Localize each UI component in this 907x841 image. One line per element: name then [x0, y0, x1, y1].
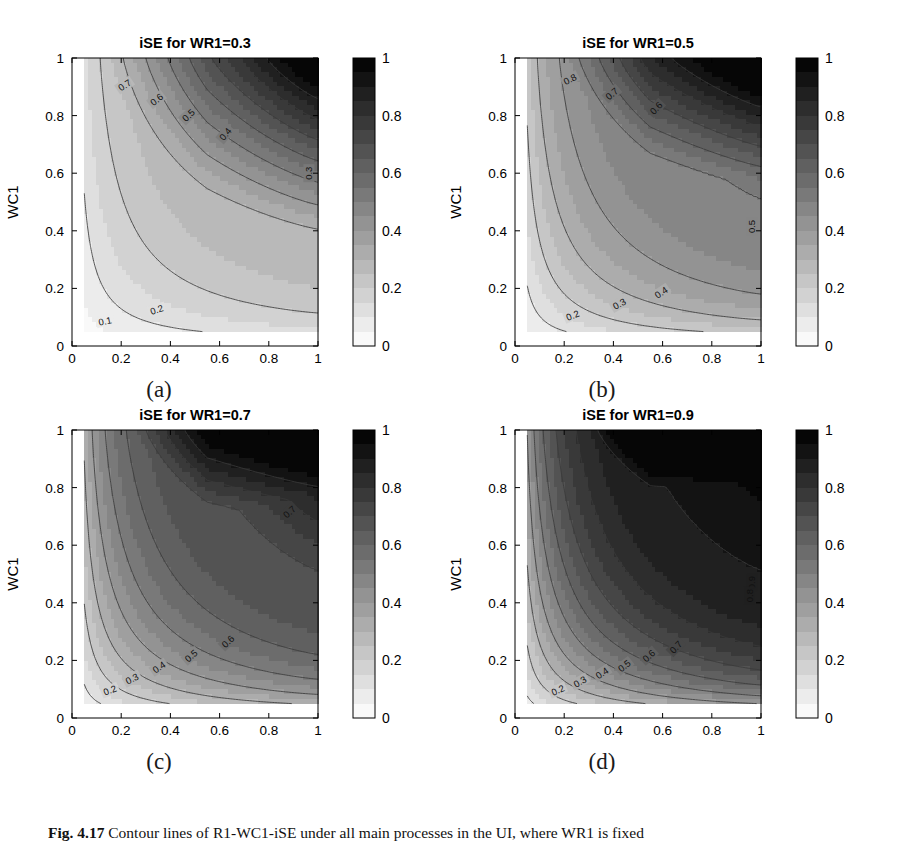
colorbar-tick-label: 0.2 — [825, 280, 845, 296]
x-tick-label: 0.4 — [604, 723, 623, 738]
colorbar-tick-label: 0.8 — [825, 108, 845, 124]
y-axis-title-d: WC1 — [447, 557, 464, 590]
y-tick-label: 0.8 — [488, 481, 507, 496]
x-tick-label: 0.8 — [702, 351, 721, 366]
y-tick-label: 0 — [56, 711, 64, 726]
colorbar-d: 00.20.40.60.81 — [796, 422, 845, 726]
y-axis-title-b: WC1 — [447, 185, 464, 218]
x-axis-title-c: R1 — [185, 744, 204, 745]
y-tick-label: 0.2 — [45, 281, 64, 296]
x-tick-label: 0 — [68, 351, 76, 366]
x-tick-label: 0.8 — [702, 723, 721, 738]
x-tick-label: 0.2 — [555, 351, 574, 366]
colorbar-tick-label: 0.4 — [382, 595, 402, 611]
colorbar-tick-label: 1 — [825, 50, 833, 66]
x-tick-label: 1 — [314, 723, 322, 738]
colorbar-tick-label: 0 — [382, 338, 390, 354]
heat-field-c — [84, 430, 318, 704]
colorbar-tick-label: 0.4 — [825, 595, 845, 611]
y-axis-title-a: WC1 — [4, 185, 21, 218]
colorbar-tick-label: 0 — [825, 710, 833, 726]
colorbar-tick-label: 0.4 — [825, 223, 845, 239]
y-tick-label: 1 — [499, 423, 507, 438]
colorbar-tick-label: 0 — [382, 710, 390, 726]
colorbar-tick-label: 0.2 — [382, 652, 402, 668]
colorbar-tick-label: 0.6 — [382, 537, 402, 553]
colorbar-tick-label: 0.4 — [382, 223, 402, 239]
figure-root: iSE for WR1=0.30.70.60.50.40.30.20.100.2… — [0, 0, 907, 841]
x-tick-label: 0 — [511, 723, 519, 738]
plot-title-d: iSE for WR1=0.9 — [582, 407, 694, 423]
x-tick-label: 0.4 — [604, 351, 623, 366]
y-tick-label: 0.2 — [488, 653, 507, 668]
colorbar-tick-label: 0.8 — [382, 108, 402, 124]
x-tick-label: 1 — [757, 723, 765, 738]
y-axis-title-c: WC1 — [4, 557, 21, 590]
y-tick-label: 0.2 — [488, 281, 507, 296]
panel-label-c: (c) — [0, 749, 318, 775]
x-tick-label: 0.2 — [555, 723, 574, 738]
colorbar-tick-label: 0.6 — [382, 165, 402, 181]
colorbar-a: 00.20.40.60.81 — [353, 50, 402, 354]
plot-title-c: iSE for WR1=0.7 — [139, 407, 251, 423]
y-tick-label: 1 — [56, 423, 64, 438]
y-tick-label: 0.6 — [45, 538, 64, 553]
y-tick-label: 0.6 — [45, 166, 64, 181]
y-tick-label: 0.4 — [488, 596, 507, 611]
x-tick-label: 0.2 — [112, 723, 131, 738]
colorbar-tick-label: 0.8 — [825, 480, 845, 496]
x-tick-label: 0.4 — [161, 351, 180, 366]
panel-label-d: (d) — [443, 749, 761, 775]
contour-panel-c: iSE for WR1=0.70.70.60.50.40.30.200.20.4… — [0, 400, 420, 745]
y-tick-label: 0.2 — [45, 653, 64, 668]
contour-label: 0.5 — [746, 220, 757, 233]
colorbar-tick-label: 0.8 — [382, 480, 402, 496]
y-tick-label: 0.6 — [488, 538, 507, 553]
x-tick-label: 1 — [757, 351, 765, 366]
colorbar-tick-label: 0 — [825, 338, 833, 354]
x-tick-label: 0.8 — [259, 351, 278, 366]
colorbar-c: 00.20.40.60.81 — [353, 422, 402, 726]
x-tick-label: 0.2 — [112, 351, 131, 366]
plot-title-a: iSE for WR1=0.3 — [139, 35, 251, 51]
y-tick-label: 0.4 — [45, 224, 64, 239]
heat-field-a — [84, 58, 318, 332]
colorbar-tick-label: 0.6 — [825, 165, 845, 181]
x-tick-label: 1 — [314, 351, 322, 366]
y-tick-label: 1 — [499, 51, 507, 66]
y-tick-label: 0.8 — [45, 481, 64, 496]
y-tick-label: 0 — [499, 339, 507, 354]
y-tick-label: 0.4 — [488, 224, 507, 239]
figure-caption-number: Fig. 4.17 — [48, 824, 104, 841]
contour-label: 0.3 — [303, 167, 314, 180]
colorbar-tick-label: 1 — [382, 50, 390, 66]
x-axis-title-b: R1 — [628, 372, 647, 373]
colorbar-b: 00.20.40.60.81 — [796, 50, 845, 354]
x-tick-label: 0.8 — [259, 723, 278, 738]
figure-caption-text: Contour lines of R1-WC1-iSE under all ma… — [108, 824, 644, 841]
y-tick-label: 0 — [499, 711, 507, 726]
x-tick-label: 0.6 — [210, 723, 229, 738]
y-tick-label: 0.4 — [45, 596, 64, 611]
x-tick-label: 0.6 — [653, 351, 672, 366]
y-tick-label: 1 — [56, 51, 64, 66]
colorbar-tick-label: 0.2 — [382, 280, 402, 296]
contour-panel-d: iSE for WR1=0.90.90.80.70.60.50.40.30.20… — [443, 400, 863, 745]
y-tick-label: 0 — [56, 339, 64, 354]
y-tick-label: 0.8 — [488, 109, 507, 124]
x-tick-label: 0.6 — [653, 723, 672, 738]
contour-label: 0.8 — [744, 589, 755, 602]
y-tick-label: 0.8 — [45, 109, 64, 124]
heat-field-b — [527, 58, 761, 332]
plot-title-b: iSE for WR1=0.5 — [582, 35, 694, 51]
colorbar-tick-label: 0.6 — [825, 537, 845, 553]
x-tick-label: 0 — [511, 351, 519, 366]
figure-caption: Fig. 4.17 Contour lines of R1-WC1-iSE un… — [48, 824, 878, 841]
x-axis-title-d: R1 — [628, 744, 647, 745]
contour-panel-b: iSE for WR1=0.50.80.70.60.50.40.30.200.2… — [443, 28, 863, 373]
x-tick-label: 0.6 — [210, 351, 229, 366]
contour-panel-a: iSE for WR1=0.30.70.60.50.40.30.20.100.2… — [0, 28, 420, 373]
x-tick-label: 0.4 — [161, 723, 180, 738]
x-tick-label: 0 — [68, 723, 76, 738]
y-tick-label: 0.6 — [488, 166, 507, 181]
